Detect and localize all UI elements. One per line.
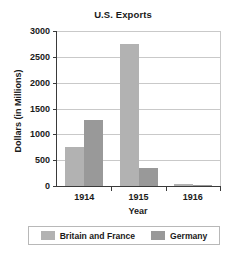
x-tick-mark (111, 186, 112, 191)
legend-swatch-icon (41, 231, 55, 240)
legend-item-britain-and-france: Britain and France (41, 231, 135, 241)
bar-1914-germany (84, 120, 103, 186)
y-tick-label: 1000 (10, 129, 50, 139)
x-tick-mark (166, 186, 167, 191)
y-tick-label: 500 (10, 155, 50, 165)
legend-item-germany: Germany (151, 231, 207, 241)
y-tick-label: 0 (10, 181, 50, 191)
bar-1914-britain-and-france (65, 147, 84, 186)
chart-title: U.S. Exports (0, 9, 246, 20)
x-tick-label-1915: 1915 (112, 192, 166, 202)
bar-group (57, 31, 220, 186)
x-tick-label-1914: 1914 (57, 192, 111, 202)
bar-1916-britain-and-france (174, 184, 193, 186)
plot-area: 050010001500200025003000 191419151916 (56, 31, 221, 187)
y-tick-label: 1500 (10, 104, 50, 114)
x-tick-mark (220, 186, 221, 191)
legend-label: Britain and France (60, 231, 135, 241)
y-tick-label: 2000 (10, 78, 50, 88)
bar-1915-germany (139, 168, 158, 186)
bar-1915-britain-and-france (120, 44, 139, 186)
legend-label: Germany (170, 231, 207, 241)
chart-figure: U.S. Exports Dollars (in Millions) 05001… (0, 0, 246, 258)
chart-legend: Britain and FranceGermany (28, 226, 220, 245)
x-tick-label-1916: 1916 (166, 192, 220, 202)
y-tick-label: 3000 (10, 26, 50, 36)
x-axis-label: Year (56, 206, 220, 216)
y-tick-label: 2500 (10, 52, 50, 62)
y-tick-mark (53, 186, 57, 187)
legend-swatch-icon (151, 231, 165, 240)
bar-1916-germany (193, 185, 212, 187)
